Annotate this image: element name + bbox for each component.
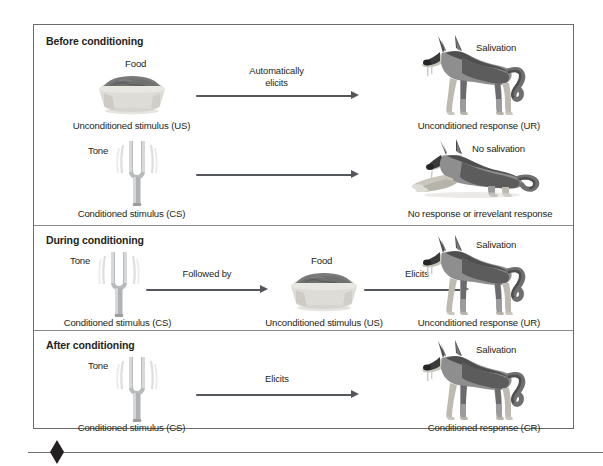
response-caption-no-response: No response or irrevelant response — [366, 208, 594, 219]
arrow-label-automatically-elicits: Automatically elicits — [194, 65, 359, 88]
stimulus-label-tone-during: Tone — [70, 255, 90, 266]
stimulus-label-tone-after: Tone — [88, 360, 108, 371]
panel-title-during: During conditioning — [46, 234, 144, 246]
arrow-label-line1: Followed by — [142, 268, 272, 280]
arrow-head — [260, 285, 268, 293]
footer-rule — [28, 452, 603, 453]
diamond-marker-icon — [50, 440, 64, 464]
arrow-label-line1: Elicits — [222, 373, 332, 385]
panel-after-conditioning: After conditioning Tone Conditioned stim… — [34, 330, 573, 430]
arrow-label-line1: Automatically — [194, 65, 359, 77]
response-caption-cr: Conditioned response (CR) — [389, 422, 579, 433]
arrow-shaft — [196, 174, 352, 176]
panel-during-conditioning: During conditioning Tone Conditioned sti… — [34, 225, 573, 330]
arrow-label-line2: elicits — [194, 77, 359, 89]
tuning-fork-icon — [112, 353, 162, 425]
panel-title-before: Before conditioning — [46, 35, 143, 47]
arrow-cs-to-no-response — [196, 170, 359, 180]
arrow-label-followed-by: Followed by — [142, 268, 272, 280]
response-caption-ur-during: Unconditioned response (UR) — [384, 317, 574, 328]
stimulus-label-tone: Tone — [88, 145, 108, 156]
arrow-shaft — [146, 289, 261, 291]
stimulus-label-food-during: Food — [311, 255, 332, 266]
tuning-fork-icon — [112, 137, 162, 209]
stimulus-caption-us: Unconditioned stimulus (US) — [34, 120, 229, 131]
arrow-cs-to-cr — [196, 390, 359, 400]
arrow-shaft — [196, 95, 352, 97]
stimulus-caption-cs: Conditioned stimulus (CS) — [34, 208, 229, 219]
stimulus-caption-cs-after: Conditioned stimulus (CS) — [34, 422, 229, 433]
panel-title-after: After conditioning — [46, 339, 135, 351]
dog-standing-salivating-icon — [416, 338, 528, 423]
dog-standing-salivating-icon — [416, 233, 528, 318]
dog-standing-salivating-icon — [416, 33, 528, 118]
dog-lying-icon — [402, 138, 542, 200]
arrow-head — [351, 91, 359, 99]
tuning-fork-icon — [94, 248, 144, 320]
stimulus-caption-cs-during: Conditioned stimulus (CS) — [20, 317, 215, 328]
arrow-us-to-ur — [196, 91, 359, 101]
stimulus-label-food: Food — [125, 58, 146, 69]
arrow-head — [351, 390, 359, 398]
diagram-frame: Before conditioning Food — [33, 24, 574, 429]
panel-before-conditioning: Before conditioning Food — [34, 25, 573, 225]
response-caption-ur: Unconditioned response (UR) — [384, 120, 574, 131]
food-bowl-icon — [281, 270, 367, 312]
arrow-head — [351, 170, 359, 178]
arrow-cs-to-us — [146, 285, 268, 295]
arrow-shaft — [196, 394, 352, 396]
food-bowl-icon — [89, 73, 175, 115]
arrow-label-elicits-after: Elicits — [222, 373, 332, 385]
figure-canvas: Before conditioning Food — [0, 0, 603, 466]
